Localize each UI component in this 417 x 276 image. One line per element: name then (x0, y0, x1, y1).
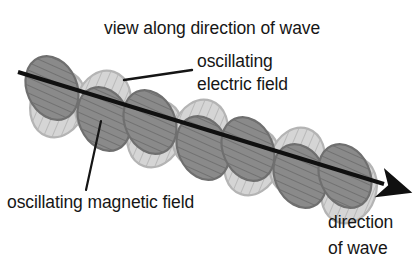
direction-label-line2: of wave (328, 238, 388, 258)
electric-field-label-line2: electric field (197, 74, 288, 94)
em-wave-diagram: view along direction of wave oscillating… (0, 0, 417, 276)
electric-field-leader-line (124, 70, 192, 80)
magnetic-field-label: oscillating magnetic field (7, 192, 194, 212)
diagram-title: view along direction of wave (104, 18, 320, 38)
wave-illustration (0, 0, 417, 276)
electric-field-label-line1: oscillating (197, 51, 273, 71)
direction-label-line1: direction (328, 212, 393, 232)
